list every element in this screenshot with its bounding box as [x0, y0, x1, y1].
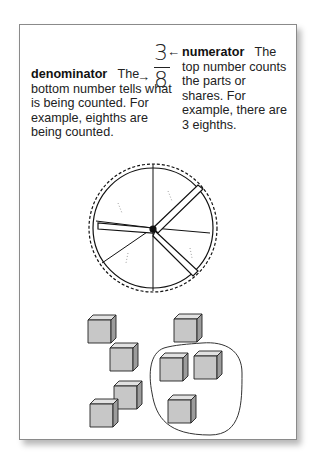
- numerator-digit: 3: [154, 42, 168, 64]
- numerator-term: numerator: [182, 45, 244, 59]
- cubes-illustration: [70, 313, 270, 443]
- numerator-explanation: numerator The top number counts the part…: [182, 45, 290, 133]
- denominator-term: denominator: [31, 67, 107, 81]
- denominator-explanation: denominator The bottom number tells what…: [31, 67, 173, 140]
- arrow-left-icon: ←: [167, 45, 180, 59]
- fraction-explanation-card: 3 8 ← → numerator The top number counts …: [19, 24, 297, 440]
- pie-illustration: [80, 153, 230, 303]
